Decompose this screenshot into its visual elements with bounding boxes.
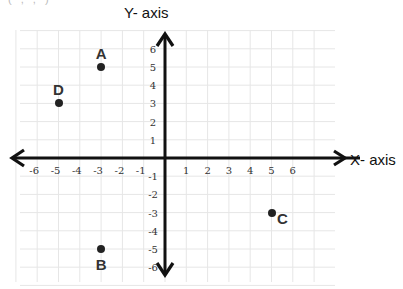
x-tick-label: 6 bbox=[290, 165, 296, 176]
x-axis-title: X- axis bbox=[350, 151, 396, 168]
y-tick-label: 4 bbox=[150, 80, 156, 91]
x-tick-label: -5 bbox=[51, 165, 61, 176]
point-b-label: B bbox=[96, 256, 107, 273]
y-tick-label: -5 bbox=[148, 244, 158, 255]
x-tick-label: -4 bbox=[72, 165, 82, 176]
y-tick-label: -4 bbox=[148, 225, 158, 236]
point-c-marker bbox=[268, 209, 276, 217]
y-tick-label: 1 bbox=[150, 134, 156, 145]
point-d-marker bbox=[55, 99, 63, 107]
y-tick-label: -3 bbox=[148, 207, 158, 218]
y-axis-title: Y- axis bbox=[124, 4, 168, 21]
coordinate-plane bbox=[0, 0, 403, 289]
y-tick-label: 6 bbox=[150, 43, 156, 54]
x-tick-label: 2 bbox=[204, 165, 210, 176]
y-tick-label: 5 bbox=[150, 62, 156, 73]
x-tick-label: -1 bbox=[136, 165, 146, 176]
x-tick-label: -2 bbox=[115, 165, 125, 176]
x-tick-label: 1 bbox=[183, 165, 189, 176]
x-tick-label: -3 bbox=[93, 165, 103, 176]
y-tick-label: 3 bbox=[150, 98, 156, 109]
y-tick-label: -1 bbox=[148, 171, 158, 182]
x-tick-label: 3 bbox=[226, 165, 232, 176]
point-c-label: C bbox=[277, 209, 288, 226]
point-a-label: A bbox=[96, 45, 107, 62]
y-tick-label: 2 bbox=[150, 116, 156, 127]
point-b-marker bbox=[97, 245, 105, 253]
point-d-label: D bbox=[53, 81, 64, 98]
x-tick-label: -6 bbox=[29, 165, 39, 176]
point-a-marker bbox=[97, 63, 105, 71]
y-tick-label: -6 bbox=[148, 262, 158, 273]
x-tick-label: 4 bbox=[247, 165, 253, 176]
x-tick-label: 5 bbox=[268, 165, 274, 176]
y-tick-label: -2 bbox=[148, 189, 158, 200]
